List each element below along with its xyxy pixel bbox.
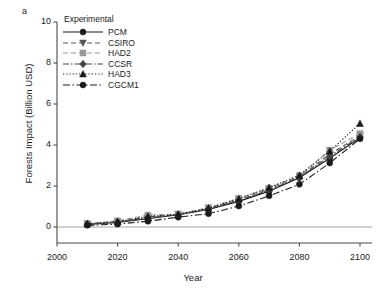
legend-label-had2: HAD2 — [108, 48, 131, 58]
legend-label-pcm: PCM — [108, 27, 127, 37]
legend-title: Experimental — [62, 14, 139, 24]
legend-key-pcm — [62, 27, 104, 37]
legend-key-ccsr — [62, 59, 104, 69]
legend-label-cgcm1: CGCM1 — [108, 80, 139, 90]
legend-key-cgcm1 — [62, 80, 104, 90]
legend-item-ccsr[interactable]: CCSR — [62, 59, 139, 70]
legend-label-csiro: CSIRO — [108, 38, 135, 48]
legend-label-ccsr: CCSR — [108, 59, 132, 69]
series-had3 — [84, 120, 364, 227]
legend-key-had2 — [62, 48, 104, 58]
figure-panel-a: a Forests Impact (Billion USD) Year 0246… — [0, 0, 386, 297]
legend: Experimental PCMCSIROHAD2CCSRHAD3CGCM1 — [62, 14, 139, 90]
series-ccsr — [84, 133, 363, 228]
legend-item-csiro[interactable]: CSIRO — [62, 38, 139, 49]
legend-item-had2[interactable]: HAD2 — [62, 48, 139, 59]
legend-item-pcm[interactable]: PCM — [62, 27, 139, 38]
legend-key-had3 — [62, 69, 104, 79]
legend-item-cgcm1[interactable]: CGCM1 — [62, 80, 139, 91]
series-cgcm1 — [84, 136, 363, 229]
series-csiro — [84, 133, 364, 228]
series-pcm — [84, 135, 363, 228]
legend-item-had3[interactable]: HAD3 — [62, 69, 139, 80]
legend-key-csiro — [62, 38, 104, 48]
series-had2 — [84, 131, 363, 227]
legend-entries: PCMCSIROHAD2CCSRHAD3CGCM1 — [62, 27, 139, 90]
legend-label-had3: HAD3 — [108, 69, 131, 79]
plot-area — [0, 0, 386, 297]
